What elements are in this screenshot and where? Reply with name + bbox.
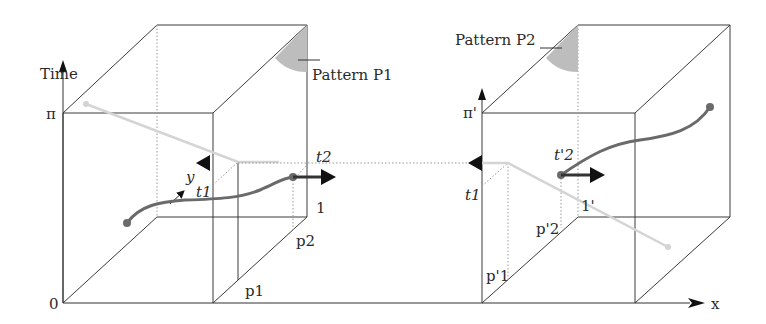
t1-right-label: t1 (465, 186, 481, 204)
p1-left-label: p1 (245, 282, 264, 300)
one-left-label: 1 (316, 199, 326, 217)
p2-left-label: p2 (296, 232, 315, 250)
left-arrow-icon (196, 155, 210, 171)
right-arrow-left-icon (321, 169, 336, 185)
left-cube (63, 25, 307, 303)
diagram-canvas: Time π 0 x π' Pattern P1 y t1 t2 1 p2 p1… (0, 0, 766, 324)
t2-right-label: t'2 (554, 146, 574, 164)
light-trajectory-left-start (83, 101, 89, 107)
pi-label: π (46, 105, 56, 123)
t1-left-label: t1 (196, 183, 212, 201)
origin-label: 0 (49, 295, 59, 313)
x-axis-label: x (711, 295, 720, 313)
left-arrow-right-icon (468, 155, 482, 171)
diagram-stage: Time π 0 x π' Pattern P1 y t1 t2 1 p2 p1… (0, 0, 766, 324)
right-cube (482, 25, 730, 303)
pattern-p2-wedge (546, 25, 578, 72)
pattern-p2-label: Pattern P2 (455, 31, 536, 49)
t2-left-label: t2 (316, 148, 332, 166)
time-label: Time (40, 65, 78, 83)
x-axis-arrow-icon (688, 298, 705, 308)
y-label: y (185, 168, 195, 186)
p2-right-label: p'2 (536, 220, 559, 238)
pi-prime-label: π' (463, 104, 477, 122)
right-arrow-right-icon (590, 167, 605, 183)
light-trajectory-right-end (665, 244, 671, 250)
one-prime-label: 1' (581, 197, 595, 215)
p1-right-label: p'1 (486, 267, 509, 285)
pattern-p1-label: Pattern P1 (312, 66, 393, 84)
dark-trajectory-right-end (706, 103, 714, 111)
dark-trajectory-left-start (123, 219, 131, 227)
time-axis-right-arrow-icon (478, 88, 486, 100)
pattern-p1-wedge (275, 25, 307, 72)
